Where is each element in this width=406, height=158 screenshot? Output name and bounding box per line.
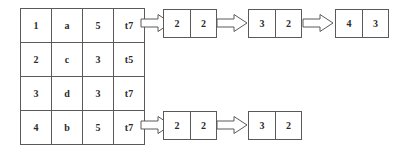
block-arrow-right-icon xyxy=(216,115,248,135)
pair-cell-left: 2 xyxy=(164,10,190,37)
pair-box-top-3: 4 3 xyxy=(335,9,389,38)
table-cell-r2c1: 2 xyxy=(21,43,52,77)
table-cell-r2c2: c xyxy=(52,43,83,77)
block-arrow-right-icon xyxy=(302,13,334,33)
pair-box-top-1: 2 2 xyxy=(163,9,217,38)
pair-cell-right: 2 xyxy=(190,10,216,37)
pair-cell-right: 2 xyxy=(275,112,301,139)
pair-cell-right: 3 xyxy=(362,10,388,37)
table-cell-r2c4: t5 xyxy=(114,43,145,77)
pair-box-bottom-2: 3 2 xyxy=(248,111,302,140)
table-cell-r3c3: 3 xyxy=(83,77,114,111)
table-cell-r4c3: 5 xyxy=(83,111,114,145)
pair-box-top-2: 3 2 xyxy=(248,9,302,38)
table-cell-r4c1: 4 xyxy=(21,111,52,145)
table-cell-r3c2: d xyxy=(52,77,83,111)
pair-box-bottom-1: 2 2 xyxy=(163,111,217,140)
pair-cell-left: 4 xyxy=(336,10,362,37)
pair-cell-left: 3 xyxy=(249,112,275,139)
diagram-canvas: 1 a 5 t7 2 c 3 t5 3 d 3 t7 4 b 5 t7 xyxy=(0,0,406,158)
table-row: 4 b 5 t7 xyxy=(21,111,145,145)
source-relation-table: 1 a 5 t7 2 c 3 t5 3 d 3 t7 4 b 5 t7 xyxy=(20,8,145,145)
pair-cell-right: 2 xyxy=(190,112,216,139)
pair-cell-right: 2 xyxy=(275,10,301,37)
table-cell-r3c1: 3 xyxy=(21,77,52,111)
pair-cell-left: 3 xyxy=(249,10,275,37)
pair-cell-left: 2 xyxy=(164,112,190,139)
table-cell-r1c3: 5 xyxy=(83,9,114,43)
table-cell-r2c3: 3 xyxy=(83,43,114,77)
table-cell-r1c1: 1 xyxy=(21,9,52,43)
table-row: 1 a 5 t7 xyxy=(21,9,145,43)
table-row: 3 d 3 t7 xyxy=(21,77,145,111)
block-arrow-right-icon xyxy=(216,13,248,33)
table-cell-r4c2: b xyxy=(52,111,83,145)
table-row: 2 c 3 t5 xyxy=(21,43,145,77)
table-cell-r1c2: a xyxy=(52,9,83,43)
table-cell-r3c4: t7 xyxy=(114,77,145,111)
